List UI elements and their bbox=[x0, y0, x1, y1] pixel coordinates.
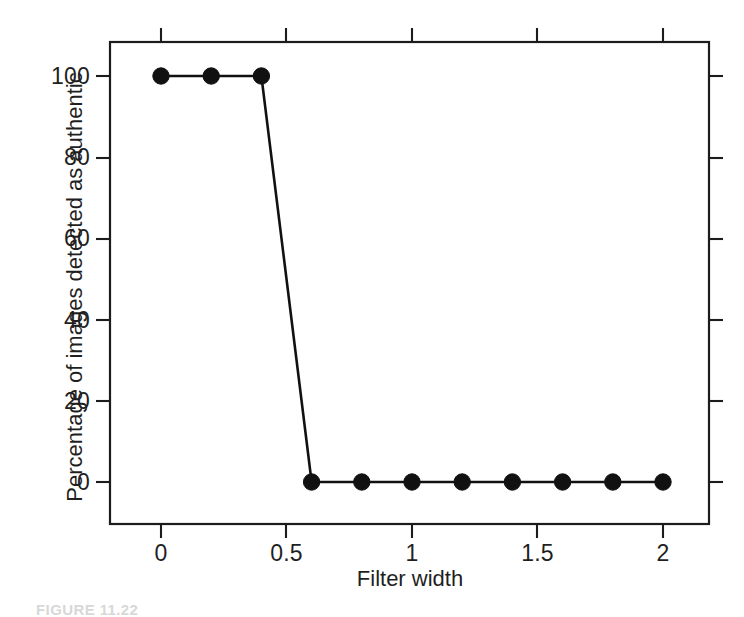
data-point bbox=[253, 68, 269, 84]
x-tick-label: 1.5 bbox=[521, 542, 554, 565]
y-axis-ticks-right bbox=[709, 76, 723, 482]
figure-container: 00.511.52 020406080100 Filter width Perc… bbox=[0, 0, 744, 617]
data-point bbox=[554, 474, 570, 490]
x-tick-label: 1 bbox=[406, 542, 419, 565]
chart-canvas bbox=[0, 0, 744, 617]
x-tick-label: 2 bbox=[657, 542, 670, 565]
data-point bbox=[404, 474, 420, 490]
data-point bbox=[454, 474, 470, 490]
x-tick-label: 0.5 bbox=[270, 542, 303, 565]
data-point bbox=[504, 474, 520, 490]
data-point bbox=[153, 68, 169, 84]
data-point bbox=[354, 474, 370, 490]
plot-frame bbox=[110, 42, 709, 524]
x-axis-title: Filter width bbox=[110, 566, 710, 592]
series-line bbox=[161, 76, 663, 482]
figure-caption: FIGURE 11.22 bbox=[36, 601, 138, 617]
data-point bbox=[605, 474, 621, 490]
data-point bbox=[303, 474, 319, 490]
data-point bbox=[655, 474, 671, 490]
series-markers bbox=[153, 68, 671, 490]
y-axis-title: Percentage of images detected as authent… bbox=[62, 37, 88, 537]
x-axis-ticks-top bbox=[161, 28, 663, 42]
x-tick-label: 0 bbox=[155, 542, 168, 565]
y-axis-ticks-left bbox=[96, 76, 110, 482]
data-point bbox=[203, 68, 219, 84]
x-axis-ticks-bottom bbox=[161, 524, 663, 538]
